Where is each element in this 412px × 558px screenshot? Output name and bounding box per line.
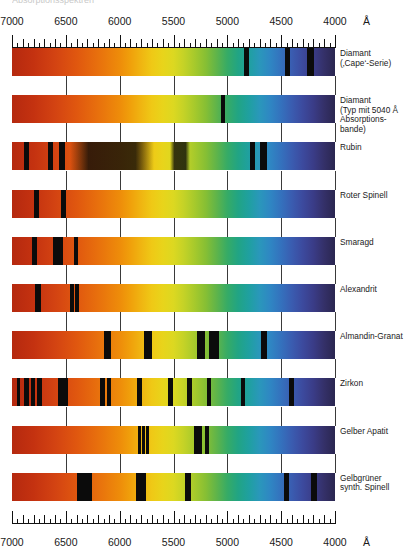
spectrum-row[interactable]: Smaragd — [0, 237, 412, 284]
cropped-header-text: Absorptionsspektren — [12, 0, 212, 7]
absorption-line — [289, 378, 294, 406]
ruler-tick — [109, 39, 110, 48]
ruler-tick — [217, 515, 218, 524]
spectra-rows: Diamant (‚Cape‘-Serie)Diamant (Typ mit 5… — [0, 48, 412, 511]
absorption-line — [168, 378, 173, 406]
spectrum-band[interactable] — [12, 331, 335, 359]
vertical-gridline — [174, 359, 175, 378]
ruler-tick — [12, 35, 13, 48]
vertical-gridline — [120, 218, 121, 237]
ruler-tick — [98, 39, 99, 48]
vertical-gridline — [335, 407, 336, 426]
vertical-gridline — [335, 454, 336, 473]
ruler-tick — [179, 519, 180, 525]
spectrum-band[interactable] — [12, 284, 335, 312]
ruler-tick — [44, 515, 45, 524]
absorption-line — [34, 190, 39, 218]
ruler-tick — [206, 39, 207, 48]
bottom-axis-labels: 7000650060005500500045004000Å — [0, 536, 412, 552]
absorption-line — [17, 378, 21, 406]
vertical-gridline — [66, 265, 67, 284]
absorption-line — [261, 331, 266, 359]
absorption-line — [107, 378, 111, 406]
spectrum-band[interactable] — [12, 473, 335, 501]
vertical-gridline — [174, 265, 175, 284]
vertical-gridline — [174, 407, 175, 426]
ruler-tick — [217, 39, 218, 48]
spectrum-band[interactable] — [12, 426, 335, 454]
ruler-tick — [233, 519, 234, 525]
spectrum-band[interactable] — [12, 48, 335, 76]
ruler-tick — [206, 515, 207, 524]
spectrum-label: Gelbgrüner synth. Spinell — [340, 474, 412, 493]
ruler-tick — [184, 39, 185, 48]
spectrum-band[interactable] — [12, 237, 335, 265]
spectrum-label: Rubin — [340, 143, 412, 153]
absorption-line — [136, 473, 146, 501]
ruler-tick — [163, 39, 164, 48]
spectrum-row[interactable]: Gelber Apatit — [0, 426, 412, 473]
spectrum-row[interactable]: Roter Spinell — [0, 190, 412, 237]
ruler-tick — [66, 35, 67, 48]
spectrum-row[interactable]: Diamant (‚Cape‘-Serie) — [0, 48, 412, 95]
spectrum-band[interactable] — [12, 142, 335, 170]
spectrum-band[interactable] — [12, 190, 335, 218]
ruler-tick — [136, 519, 137, 525]
vertical-gridline — [281, 407, 282, 426]
absorption-line — [104, 331, 110, 359]
spectrum-row[interactable]: Almandin-Granat — [0, 331, 412, 378]
absorption-line — [142, 426, 145, 454]
absorption-line — [260, 142, 267, 170]
absorption-line — [24, 142, 29, 170]
spectrum-gradient — [12, 284, 335, 312]
spectrum-label: Gelber Apatit — [340, 427, 412, 437]
absorption-line — [207, 378, 212, 406]
ruler-tick — [44, 39, 45, 48]
top-axis-labels: 7000650060005500500045004000Å — [0, 15, 412, 31]
ruler-tick — [39, 519, 40, 525]
spectrum-row[interactable]: Alexandrit — [0, 284, 412, 331]
vertical-gridline — [227, 454, 228, 473]
ruler-tick — [281, 511, 282, 524]
spectrum-band[interactable] — [12, 378, 335, 406]
vertical-gridline — [66, 359, 67, 378]
ruler-tick — [55, 39, 56, 48]
vertical-gridline — [120, 407, 121, 426]
vertical-gridline — [335, 171, 336, 190]
spectrum-row[interactable]: Diamant (Typ mit 5040 Å Absorptions- ban… — [0, 95, 412, 142]
spectra-chart: Absorptionsspektren 70006500600055005000… — [0, 0, 412, 558]
vertical-gridline — [174, 312, 175, 331]
ruler-tick — [104, 519, 105, 525]
ruler-tick — [34, 515, 35, 524]
spectrum-row[interactable]: Zirkon — [0, 378, 412, 425]
axis-tick-label-4000: 4000 — [323, 15, 346, 27]
ruler-tick — [190, 519, 191, 525]
absorption-line — [170, 142, 189, 170]
absorption-line — [61, 190, 66, 218]
ruler-tick — [260, 39, 261, 48]
vertical-gridline — [335, 123, 336, 142]
vertical-gridline — [227, 265, 228, 284]
vertical-gridline — [120, 265, 121, 284]
ruler-tick — [238, 515, 239, 524]
ruler-tick — [324, 515, 325, 524]
vertical-gridline — [120, 454, 121, 473]
ruler-tick — [163, 515, 164, 524]
absorption-line — [35, 284, 41, 312]
absorption-line — [250, 142, 255, 170]
spectrum-label: Diamant (Typ mit 5040 Å Absorptions- ban… — [340, 96, 412, 134]
ruler-tick — [227, 511, 228, 524]
vertical-gridline — [335, 312, 336, 331]
ruler-tick — [195, 515, 196, 524]
absorption-line — [48, 142, 53, 170]
axis-tick-label-5000: 5000 — [216, 536, 239, 548]
spectrum-label: Roter Spinell — [340, 191, 412, 201]
absorption-line — [100, 378, 105, 406]
vertical-gridline — [120, 123, 121, 142]
absorption-line — [205, 426, 209, 454]
spectrum-row[interactable]: Rubin — [0, 142, 412, 189]
ruler-tick — [308, 519, 309, 525]
vertical-gridline — [174, 171, 175, 190]
spectrum-band[interactable] — [12, 95, 335, 123]
ruler-tick — [270, 39, 271, 48]
